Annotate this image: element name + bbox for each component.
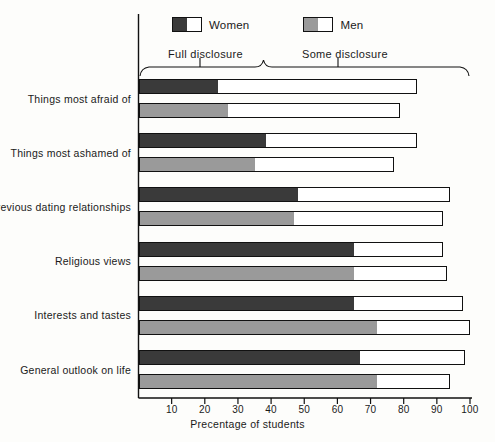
bar-segment-full-disclosure	[140, 188, 298, 201]
x-tick-label: 50	[298, 404, 310, 415]
category-label: Interests and tastes	[34, 309, 131, 321]
x-tick-label: 20	[199, 404, 211, 415]
legend-entry-men: Men	[303, 17, 363, 32]
chart-container: Women Men Full disclosure Some disclosur…	[0, 0, 495, 442]
bar-women-interests-and-tastes	[139, 296, 464, 311]
bar-segment-full-disclosure	[140, 212, 295, 225]
category-label: Religious views	[55, 255, 131, 267]
legend-swatch-men-icon	[303, 17, 333, 32]
bar-segment-full-disclosure	[140, 134, 267, 147]
bar-segment-full-disclosure	[140, 243, 354, 256]
bar-women-things-most-ashamed-of	[139, 133, 417, 148]
legend-label-women: Women	[209, 19, 249, 31]
x-axis-title: Precentage of students	[0, 418, 495, 430]
legend-label-men: Men	[340, 19, 363, 31]
bar-women-things-most-afraid-of	[139, 79, 417, 94]
bar-women-general-outlook-on-life	[139, 350, 466, 365]
x-tick-label: 60	[332, 404, 344, 415]
bar-segment-full-disclosure	[140, 158, 255, 171]
x-tick-label: 30	[232, 404, 244, 415]
bar-men-interests-and-tastes	[139, 320, 471, 335]
category-label: Previous dating relationships	[0, 201, 131, 213]
bar-women-religious-views	[139, 242, 444, 257]
bar-segment-full-disclosure	[140, 80, 219, 93]
category-label: General outlook on life	[20, 364, 131, 376]
bar-men-previous-dating-relationships	[139, 211, 444, 226]
annotation-full-disclosure: Full disclosure	[168, 48, 243, 60]
bar-women-previous-dating-relationships	[139, 187, 451, 202]
x-tick-label: 100	[461, 404, 478, 415]
category-label: Things most ashamed of	[11, 147, 131, 159]
x-tick-label: 70	[365, 404, 377, 415]
x-tick-label: 40	[265, 404, 277, 415]
x-tick-label: 80	[398, 404, 410, 415]
x-tick-label: 90	[431, 404, 443, 415]
bar-men-religious-views	[139, 266, 447, 281]
x-tick-label: 10	[166, 404, 178, 415]
bar-men-things-most-afraid-of	[139, 103, 401, 118]
bar-segment-full-disclosure	[140, 104, 229, 117]
bar-segment-full-disclosure	[140, 351, 361, 364]
bar-segment-full-disclosure	[140, 375, 377, 388]
chart-legend: Women Men	[172, 17, 363, 32]
legend-swatch-women-icon	[172, 17, 202, 32]
category-label: Things most afraid of	[28, 93, 131, 105]
bar-segment-full-disclosure	[140, 297, 354, 310]
bar-segment-full-disclosure	[140, 267, 354, 280]
bar-men-general-outlook-on-life	[139, 374, 451, 389]
legend-entry-women: Women	[172, 17, 249, 32]
bar-segment-full-disclosure	[140, 321, 377, 334]
bar-men-things-most-ashamed-of	[139, 157, 394, 172]
annotation-some-disclosure: Some disclosure	[302, 48, 388, 60]
